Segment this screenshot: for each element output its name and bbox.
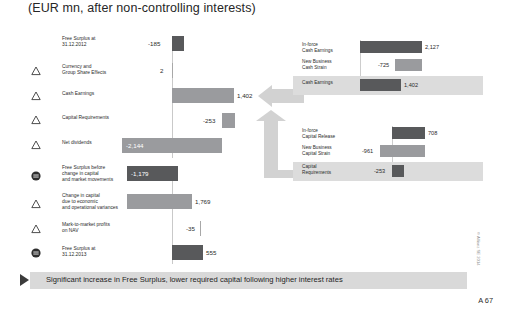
value-change-in-capital: 1,769: [195, 198, 210, 205]
bar-mark-to-market: [200, 221, 201, 236]
panel-label-in-force-cash-earnings: In-force Cash Earnings: [302, 42, 333, 54]
sum-icon: [30, 247, 42, 259]
label-line: Cash Earnings: [62, 91, 158, 97]
bar-free-surplus-2012: [172, 36, 184, 51]
value-capital-requirements: -253: [203, 117, 215, 124]
row-label-free-surplus-2013: Free Surplus at 31.12.2013: [62, 246, 158, 258]
bar-currency-group-share: [172, 63, 173, 78]
panel-value-in-force-capital-release: 708: [428, 130, 437, 136]
value-free-surplus-2013: 555: [206, 249, 216, 256]
delta-icon: [30, 139, 42, 151]
label-line: Cash Earnings: [302, 48, 333, 54]
page-number: A 67: [478, 296, 493, 305]
panel-value-capital-requirements-total: -253: [374, 168, 385, 174]
delta-icon: [30, 114, 42, 126]
panel-value-cash-earnings-total: 1,402: [404, 82, 418, 88]
panel-label-new-business-capital-strain: New Business Capital Strain: [302, 145, 332, 157]
panel-label-in-force-capital-release: In-force Capital Release: [302, 128, 335, 140]
bar-cash-earnings: [172, 88, 234, 103]
label-line: 31.12.2013: [62, 252, 158, 258]
delta-icon: [30, 198, 42, 210]
delta-icon: [30, 223, 42, 235]
label-line: Cash Earnings: [302, 80, 333, 86]
value-mark-to-market: -35: [186, 225, 195, 232]
label-line: Capital Requirements: [62, 115, 158, 121]
row-label-currency-group-share: Currency and Group Share Effects: [62, 64, 158, 76]
delta-icon: [30, 90, 42, 102]
value-free-surplus-before-change: -1,179: [131, 170, 149, 177]
panel-value-new-business-capital-strain: -961: [362, 148, 373, 154]
bar-free-surplus-2013: [172, 245, 203, 260]
slide-subtitle: (EUR mn, after non-controlling interests…: [28, 1, 256, 15]
label-line: 31.12.2012: [62, 42, 158, 48]
bar-change-in-capital: [127, 194, 192, 209]
panel-label-capital-requirements-total: Capital Requirements: [302, 164, 331, 176]
row-label-mark-to-market: Mark-to-market profits on NAV: [62, 222, 158, 234]
slide-canvas: (EUR mn, after non-controlling interests…: [0, 0, 505, 314]
label-line: Requirements: [302, 170, 331, 176]
label-line: New Business: [302, 145, 332, 151]
label-line: New Business: [302, 59, 332, 65]
panel-bar-cash-earnings-total: [360, 79, 401, 91]
delta-icon: [30, 65, 42, 77]
panel-value-in-force-cash-earnings: 2,127: [425, 44, 439, 50]
panel-value-new-business-cash-strain: -725: [378, 62, 389, 68]
value-cash-earnings: 1,402: [237, 92, 252, 99]
label-line: Group Share Effects: [62, 70, 158, 76]
value-free-surplus-2012: -185: [148, 40, 160, 47]
label-line: on NAV: [62, 228, 158, 234]
label-line: Cash Strain: [302, 65, 332, 71]
row-label-capital-requirements: Capital Requirements: [62, 115, 158, 121]
label-line: Capital Strain: [302, 151, 332, 157]
label-line: Capital Release: [302, 134, 335, 140]
panel-capital-requirements-breakdown: In-force Capital Release 708 New Busines…: [300, 126, 490, 184]
row-label-cash-earnings: Cash Earnings: [62, 91, 158, 97]
sum-icon: [30, 170, 42, 182]
panel-bar-new-business-cash-strain: [395, 59, 422, 71]
panel-bar-capital-requirements-total: [392, 165, 404, 177]
copyright-notice: © Allianz SE 2014: [476, 232, 481, 266]
panel-bar-in-force-cash-earnings: [360, 41, 422, 53]
bar-capital-requirements: [222, 113, 235, 128]
summary-banner-text: Significant increase in Free Surplus, lo…: [46, 275, 343, 284]
value-currency-group-share: 2: [160, 67, 163, 74]
panel-label-new-business-cash-strain: New Business Cash Strain: [302, 59, 332, 71]
panel-bar-in-force-capital-release: [392, 127, 425, 139]
panel-label-cash-earnings-total: Cash Earnings: [302, 80, 333, 86]
panel-bar-new-business-capital-strain: [380, 145, 425, 157]
row-label-free-surplus-2012: Free Surplus at 31.12.2012: [62, 36, 158, 48]
play-triangle-icon: [20, 274, 29, 286]
panel-cash-earnings-breakdown: In-force Cash Earnings 2,127 New Busines…: [300, 40, 490, 98]
value-net-dividends: -2,144: [126, 142, 144, 149]
